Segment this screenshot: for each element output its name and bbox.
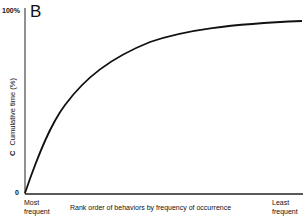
y-tick-100: 100%	[2, 7, 20, 14]
y-axis-letter: C	[8, 151, 17, 156]
x-left-line1: Most	[24, 198, 50, 207]
y-tick-0: 0	[15, 189, 19, 196]
x-left-line2: frequent	[24, 207, 50, 216]
y-axis-title: Cumulative time (%)	[8, 78, 17, 146]
x-axis-title: Rank order of behaviors by frequency of …	[70, 203, 231, 212]
x-tick-least-frequent: Least frequent	[272, 198, 298, 216]
chart-plot-area	[0, 0, 306, 217]
x-right-line1: Least	[272, 198, 298, 207]
panel-label: B	[30, 2, 41, 22]
cumulative-curve	[25, 21, 302, 193]
y-axis-label: CCumulative time (%)	[8, 78, 17, 156]
x-right-line2: frequent	[272, 207, 298, 216]
x-tick-most-frequent: Most frequent	[24, 198, 50, 216]
